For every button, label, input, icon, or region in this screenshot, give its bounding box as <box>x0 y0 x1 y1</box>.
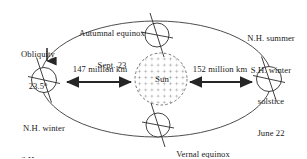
obliquity-label: Obliquity 23.5o <box>6 28 70 112</box>
obliquity-value-line: 23.5o <box>6 81 70 92</box>
degree-symbol: o <box>44 80 47 87</box>
nh-winter-line2: S.H. summer <box>2 155 86 159</box>
autumnal-equinox-name: Autumnal equinox <box>68 28 156 39</box>
nh-summer-date: June 22 <box>236 128 306 139</box>
vernal-equinox-label: Vernal equinox Mar. 20 <box>161 128 245 158</box>
aphelion-distance-label: 152 million km <box>182 64 258 75</box>
nh-summer-solstice-label: N.H. summer S.H. winter solstice June 22 <box>236 12 306 158</box>
sun-label: Sun <box>146 74 178 85</box>
obliquity-title: Obliquity <box>6 49 70 60</box>
vernal-equinox-name: Vernal equinox <box>161 149 245 158</box>
orbit-diagram-figure: Obliquity 23.5o Autumnal equinox Sept. 2… <box>0 0 307 158</box>
nh-winter-line1: N.H. winter <box>2 123 86 134</box>
autumnal-equinox-label: Autumnal equinox Sept. 23 <box>68 7 156 91</box>
nh-summer-line1: N.H. summer <box>236 33 306 44</box>
perihelion-distance-label: 147 million km <box>63 64 137 75</box>
nh-summer-line3: solstice <box>236 96 306 107</box>
nh-winter-solstice-label: N.H. winter S.H. summer solstice Dec. 22 <box>2 102 86 158</box>
obliquity-value: 23.5 <box>29 81 44 91</box>
